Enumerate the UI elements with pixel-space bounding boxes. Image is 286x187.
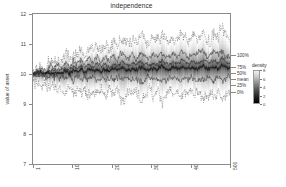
x-tick-mark xyxy=(112,165,113,168)
quantile-leader-line xyxy=(231,67,236,68)
density-legend-tick-mark xyxy=(260,104,262,105)
x-tick-mark xyxy=(72,165,73,168)
y-tick-label: 12 xyxy=(12,11,26,17)
y-axis-label: value of asset xyxy=(4,64,10,114)
quantile-leader-line xyxy=(231,55,236,56)
quantile-label-0pct: 0% xyxy=(237,90,244,95)
quantile-leader-line xyxy=(231,85,236,86)
density-legend-tick-label: 2 xyxy=(263,93,265,98)
y-tick-label: 9 xyxy=(12,101,26,107)
quantile-label-50pct: 50% xyxy=(237,70,246,75)
density-legend-tick-label: 6 xyxy=(263,76,265,81)
density-legend-tick-mark xyxy=(260,96,262,97)
y-tick-label: 7 xyxy=(12,161,26,167)
density-legend: density 02468 xyxy=(252,63,286,109)
density-legend-tick-mark xyxy=(260,79,262,80)
x-tick-label: 1 xyxy=(35,167,41,170)
x-tick-mark xyxy=(230,165,231,168)
x-tick-mark xyxy=(191,165,192,168)
density-legend-tick-label: 8 xyxy=(263,68,265,73)
plot-area xyxy=(32,13,231,165)
density-legend-tick-label: 4 xyxy=(263,85,265,90)
y-tick-label: 10 xyxy=(12,71,26,77)
density-legend-tick-label: 0 xyxy=(263,102,265,107)
chart-title: independence xyxy=(32,2,231,9)
x-tick-mark xyxy=(33,165,34,168)
quantile-leader-line xyxy=(231,79,236,80)
x-tick-mark xyxy=(151,165,152,168)
density-legend-tick-mark xyxy=(260,70,262,71)
y-tick-label: 8 xyxy=(12,131,26,137)
plot-clip xyxy=(33,14,230,164)
quantile-leader-line xyxy=(231,73,236,74)
quantile-label-25pct: 25% xyxy=(237,82,246,87)
x-tick-label: 500 xyxy=(232,162,238,170)
quantile-label-mean: mean xyxy=(237,76,249,81)
quantile-leader-line xyxy=(231,92,236,93)
quantile-label-75pct: 75% xyxy=(237,64,246,69)
density-colorbar xyxy=(253,70,260,104)
fan-density-plot xyxy=(33,14,230,164)
quantile-label-100pct: 100% xyxy=(237,53,249,58)
y-tick-label: 11 xyxy=(12,41,26,47)
fan-chart-figure: independence value of asset 789101112 11… xyxy=(0,0,286,187)
density-legend-tick-mark xyxy=(260,87,262,88)
